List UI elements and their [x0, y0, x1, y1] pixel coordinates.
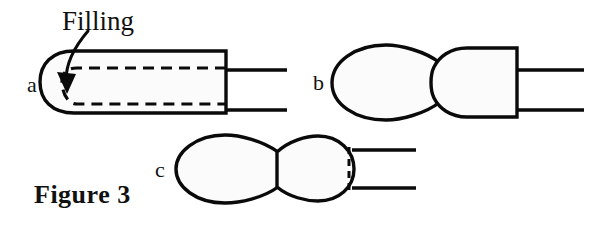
- panel-b-body: [431, 48, 517, 117]
- panel-a-group: a: [27, 31, 287, 113]
- panel-letter-a: a: [27, 72, 37, 97]
- figure-drawing-canvas: a b c Filling Figure 3: [0, 0, 612, 227]
- panel-letter-c: c: [155, 157, 165, 182]
- figure-3-illustration: a b c Filling Figure 3: [0, 0, 612, 227]
- panel-b-cap-ellipse: [332, 45, 440, 120]
- panel-b-group: b: [313, 45, 584, 120]
- panel-c-right-ellipse: [277, 136, 354, 201]
- figure-caption: Figure 3: [34, 180, 131, 209]
- panel-c-group: c: [155, 135, 416, 203]
- filling-label: Filling: [62, 6, 134, 36]
- panel-letter-b: b: [313, 70, 324, 95]
- panel-c-left-ellipse: [176, 135, 278, 203]
